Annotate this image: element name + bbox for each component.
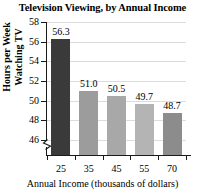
x-axis-tick <box>158 156 159 160</box>
x-axis-tick-label: 35 <box>77 163 101 174</box>
y-axis-tick <box>41 81 47 82</box>
bar <box>107 96 126 155</box>
y-axis-tick <box>41 140 47 141</box>
x-axis-tick <box>47 156 48 160</box>
chart-title: Television Viewing, by Annual Income <box>0 1 205 14</box>
y-axis-tick-label: 54 <box>21 56 39 66</box>
y-axis-tick <box>41 42 47 43</box>
x-axis-tick-label: 70 <box>160 163 184 174</box>
x-axis-label: Annual Income (thousands of dollars) <box>0 178 205 190</box>
y-axis-tick <box>41 61 47 62</box>
bar <box>79 91 98 155</box>
bar-chart: Television Viewing, by Annual Income Hou… <box>0 0 205 194</box>
y-axis-tick <box>41 120 47 121</box>
y-axis-tick-label: 52 <box>21 76 39 86</box>
y-axis-tick-label: 56 <box>21 37 39 47</box>
bar <box>163 113 182 155</box>
x-axis-tick-label: 55 <box>132 163 156 174</box>
y-axis-tick <box>41 101 47 102</box>
x-axis-tick <box>186 156 187 160</box>
x-axis-tick-label: 25 <box>49 163 73 174</box>
y-axis-tick-label: 50 <box>21 96 39 106</box>
y-axis-tick-label: 46 <box>21 135 39 145</box>
bar-value-label: 49.7 <box>128 92 160 102</box>
y-axis-tick-label: 58 <box>21 17 39 27</box>
x-axis-tick <box>75 156 76 160</box>
x-axis-tick-label: 45 <box>105 163 129 174</box>
bar-value-label: 48.7 <box>156 101 188 111</box>
x-axis-tick <box>103 156 104 160</box>
x-axis-tick <box>130 156 131 160</box>
y-axis-tick <box>41 22 47 23</box>
bar <box>51 39 70 155</box>
y-axis-tick-label: 48 <box>21 115 39 125</box>
x-axis-line <box>46 155 191 156</box>
bar <box>135 104 154 155</box>
y-axis-label-line-1: Hours per Week <box>1 5 13 109</box>
bar-value-label: 56.3 <box>45 27 77 37</box>
